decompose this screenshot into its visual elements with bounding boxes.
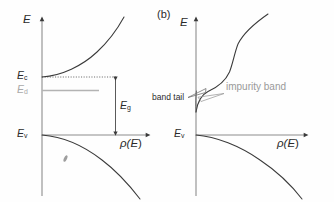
panel-b-impurity-band-label: impurity band — [226, 82, 286, 92]
panel-a-level-label-ec: Ec — [17, 70, 27, 82]
panel-b-y-axis-label: E — [180, 17, 188, 29]
panel-b-rho-arg: E — [287, 137, 295, 149]
panel-b-identifier: (b) — [157, 9, 170, 20]
panel-a-rho-close: ) — [138, 137, 142, 149]
panel-b-band-tail-label: band tail — [152, 93, 184, 102]
panel-a-y-axis-label: E — [23, 14, 31, 26]
panel-b-rho-symbol: ρ( — [277, 137, 287, 149]
panel-b-group — [188, 14, 306, 199]
panel-b-impurity-band-leader — [198, 94, 224, 102]
panel-a-x-axis-label: ρ(E) — [120, 138, 142, 150]
panel-a-rho-symbol: ρ( — [120, 137, 130, 149]
panel-a-ed-sub: d — [24, 88, 28, 95]
panel-a-ev-sub: v — [24, 132, 27, 139]
panel-a-band-gap-label: Eg — [120, 100, 131, 112]
panel-a-eg-sub: g — [127, 104, 131, 111]
panel-b-conduction-band-curve — [196, 14, 268, 112]
panel-a-ec-base: E — [17, 69, 24, 81]
panel-a-ed-base: E — [17, 83, 24, 95]
panel-b-ev-sub: v — [181, 132, 184, 139]
panel-a-eg-base: E — [120, 99, 127, 111]
panel-a-group — [42, 17, 148, 199]
panel-a-ec-sub: c — [24, 74, 27, 81]
panel-a-conduction-band-curve — [42, 17, 124, 77]
panel-b-x-axis-label: ρ(E) — [277, 138, 299, 150]
panel-b-level-label-ev: Ev — [174, 128, 184, 140]
panel-b-ev-base: E — [174, 127, 181, 139]
figure-root: E Ec Ed Ev Eg ρ(E) (b) E Ev band tail im… — [0, 0, 334, 202]
panel-a-level-label-ev: Ev — [17, 128, 27, 140]
panel-a-rho-arg: E — [130, 137, 138, 149]
panel-b-rho-close: ) — [295, 137, 299, 149]
panel-a-level-label-ed: Ed — [17, 84, 28, 96]
panel-a-ev-base: E — [17, 127, 24, 139]
